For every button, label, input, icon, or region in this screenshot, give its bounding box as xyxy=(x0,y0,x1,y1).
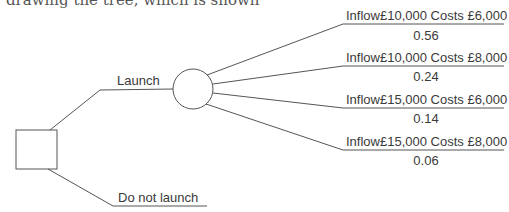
outcome-label-4: Inflow£15,000 Costs £8,000 xyxy=(346,134,506,149)
probability-1: 0.56 xyxy=(346,28,506,43)
probability-3: 0.14 xyxy=(346,111,506,126)
launch-label: Launch xyxy=(117,73,160,88)
outcome-label-2: Inflow£10,000 Costs £8,000 xyxy=(346,50,506,65)
decision-node-square xyxy=(16,130,57,169)
probability-2: 0.24 xyxy=(346,69,506,84)
probability-4: 0.06 xyxy=(346,153,506,168)
launch-branch xyxy=(50,89,173,130)
do-not-launch-label: Do not launch xyxy=(118,190,198,205)
outcome-label-3: Inflow£15,000 Costs £6,000 xyxy=(346,92,506,107)
outcome-label-1: Inflow£10,000 Costs £6,000 xyxy=(346,8,506,23)
